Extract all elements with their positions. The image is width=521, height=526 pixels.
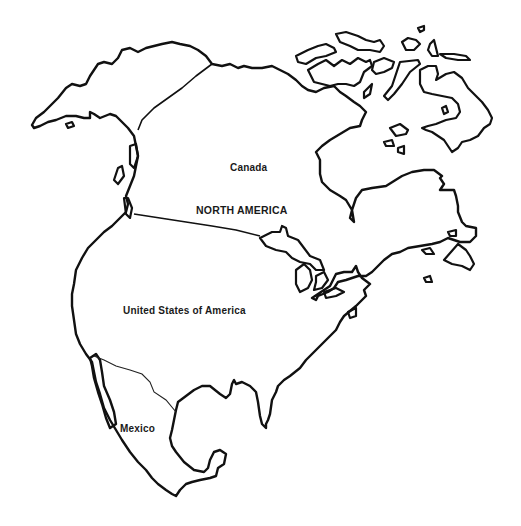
label-canada: Canada [230, 162, 267, 173]
island [114, 166, 124, 184]
baffin-island [420, 66, 492, 152]
arctic-island [364, 84, 372, 98]
mainland-coastline [32, 42, 476, 496]
alaska-canada-border [138, 64, 212, 130]
island [348, 308, 356, 318]
arctic-island [428, 40, 438, 56]
island [448, 230, 456, 236]
baja-california [90, 354, 116, 428]
arctic-island [418, 26, 424, 32]
arctic-island [440, 54, 470, 60]
great-lakes [296, 264, 312, 292]
label-continent-title: NORTH AMERICA [196, 204, 287, 216]
arctic-island [336, 32, 384, 52]
arctic-island [402, 38, 420, 50]
arctic-island [296, 44, 336, 64]
island [422, 248, 434, 254]
island [442, 106, 448, 114]
arctic-island [384, 60, 420, 100]
newfoundland [444, 244, 474, 270]
arctic-island [372, 58, 394, 74]
canada-usa-border [134, 214, 260, 236]
north-america-outline-map [0, 0, 521, 526]
island [66, 122, 74, 128]
label-mexico: Mexico [120, 423, 155, 434]
island [398, 146, 404, 154]
island [384, 140, 394, 146]
usa-mexico-border [94, 356, 176, 412]
island [424, 276, 432, 282]
great-lakes [260, 226, 324, 270]
label-united-states: United States of America [123, 305, 246, 316]
island [390, 124, 408, 136]
arctic-island [308, 58, 372, 86]
